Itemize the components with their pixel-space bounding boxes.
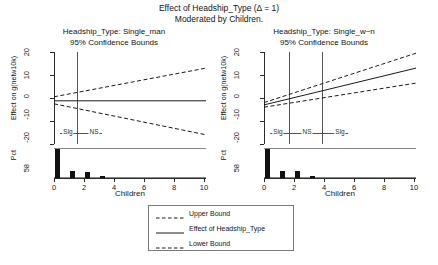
y-tick-10-right: 10 [232,71,241,79]
chart-legend: Upper Bound Effect of Headship_Type Lowe… [148,205,294,251]
x-axis-title-left: Children [54,189,206,198]
y-axis-title-left: Effect on g(netw10k) [10,56,17,120]
y-tick-neg20-right: -20 [232,132,241,143]
y-tick-mark-neg20-right [260,144,264,145]
x-tick-mark-8-right [384,178,385,182]
region-label-sig-2-right: Sig [334,128,345,135]
plot-area-left: Sig NS [54,52,206,144]
legend-key-solid-effect [156,224,184,234]
x-tick-mark-6-right [354,178,355,182]
histogram-right [264,148,416,178]
legend-label-lower-bound: Lower Bound [189,240,230,247]
legend-key-dashed-upper [156,209,184,219]
y-tick-neg20-left: -20 [22,132,31,143]
effect-lines-left [54,52,206,144]
x-tick-mark-8-left [174,178,175,182]
panel-single-woman: Headship_Type: Single_w~n 95% Confidence… [218,26,430,201]
y-tick-20-right: 20 [232,48,241,56]
lower-bound-line-left [54,104,206,135]
region-label-sig-1-right: Sig [272,128,283,135]
x-tick-mark-0-left [54,178,55,182]
y-tick-mark-neg20-left [50,144,54,145]
y-tick-neg10-right: -10 [232,109,241,120]
hist-bar-1-right [280,171,285,179]
upper-bound-line-left [54,68,206,97]
x-tick-mark-10-right [414,178,415,182]
y-tick-labels-left: 20 10 0 -10 -20 [22,52,36,144]
chart-title-line-2: Moderated by Children. [0,14,438,25]
chart-title: Effect of Headship_Type (Δ = 1) Moderate… [0,3,438,25]
y-tick-neg10-left: -10 [22,109,31,120]
hist-top-line-left [54,148,206,149]
hist-bar-0-left [55,149,60,178]
legend-item-effect: Effect of Headship_Type [149,221,293,236]
hist-y-label-right: Pct [220,150,227,160]
y-axis-title-right: Effect on g(netw10k) [220,56,227,120]
x-axis-line-left [54,178,206,179]
y-tick-20-left: 20 [22,48,31,56]
legend-label-effect: Effect of Headship_Type [189,225,265,232]
y-tick-10-left: 10 [22,71,31,79]
x-tick-mark-2-left [84,178,85,182]
upper-bound-line-right [264,53,416,102]
region-label-ns-left: NS [88,128,99,135]
hist-bar-0-right [265,149,270,178]
y-tick-0-right: 0 [232,94,241,98]
hist-bar-2-right [295,171,300,178]
hist-y-max-right: 58 [232,164,241,172]
legend-label-upper-bound: Upper Bound [189,210,230,217]
x-tick-mark-4-right [324,178,325,182]
region-label-ns-right: NS [301,128,312,135]
x-axis-title-right: Children [264,189,416,198]
hist-y-label-left: Pct [10,150,17,160]
legend-key-dashed-lower [156,239,184,249]
x-tick-mark-2-right [294,178,295,182]
x-tick-mark-4-left [114,178,115,182]
plot-area-right: Sig NS Sig [264,52,416,144]
region-label-sig-left: Sig [62,128,73,135]
legend-item-lower-bound: Lower Bound [149,236,293,251]
panel-title-right: Headship_Type: Single_w~n [218,26,430,37]
x-tick-mark-0-right [264,178,265,182]
y-tick-labels-right: 20 10 0 -10 -20 [232,52,246,144]
hist-y-max-left: 58 [22,164,31,172]
x-tick-mark-10-left [204,178,205,182]
panel-title-left: Headship_Type: Single_man [8,26,220,37]
panel-subtitle-right: 95% Confidence Bounds [218,37,430,48]
hist-bar-1-left [70,171,75,178]
y-tick-0-left: 0 [22,94,31,98]
histogram-left [54,148,206,178]
x-axis-line-right [264,178,416,179]
chart-title-line-1: Effect of Headship_Type (Δ = 1) [0,3,438,14]
x-tick-mark-6-left [144,178,145,182]
hist-top-line-right [264,148,416,149]
legend-item-upper-bound: Upper Bound [149,206,293,221]
panel-single-man: Headship_Type: Single_man 95% Confidence… [8,26,220,201]
panel-subtitle-left: 95% Confidence Bounds [8,37,220,48]
